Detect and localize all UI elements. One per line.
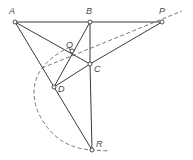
geometry-figure: ABPQCDR [0,0,193,160]
label-Q: Q [66,40,73,50]
geometry-diagram: ABPQCDR [0,0,193,160]
label-R: R [96,139,103,149]
point-C [88,62,92,66]
label-D: D [58,84,65,94]
point-B [88,20,92,24]
segment-BD [54,22,90,87]
construction-lines [34,11,182,151]
label-P: P [159,6,165,16]
label-B: B [86,6,92,16]
dashed-line-QP [42,11,182,68]
points [13,20,164,152]
solid-segments [15,22,162,150]
point-P [160,20,164,24]
segment-CP [90,22,162,64]
point-A [13,20,17,24]
point-D [52,85,56,89]
point-R [90,148,94,152]
segment-DR [54,87,92,150]
dashed-arc [34,47,110,151]
segment-CR [90,64,92,150]
label-C: C [94,64,101,74]
label-A: A [8,6,15,16]
segment-AD [15,22,54,87]
